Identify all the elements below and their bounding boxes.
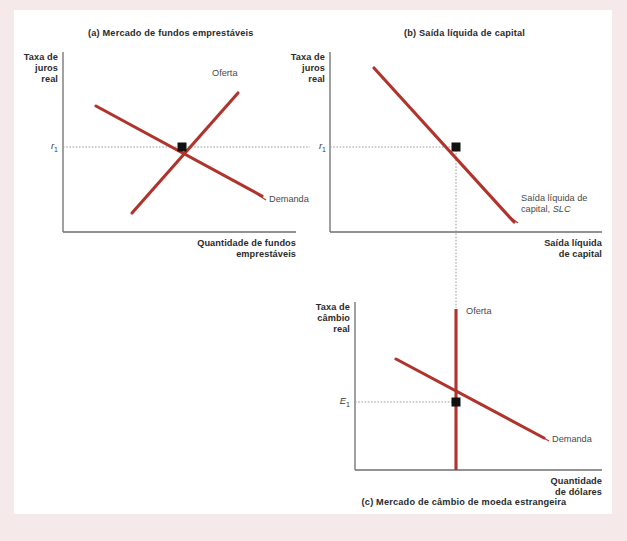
figure-sheet: (a) Mercado de fundos emprestáveis Taxa … xyxy=(14,10,612,514)
panel-b xyxy=(330,52,602,308)
panel-b-nco-label-line2: capital, xyxy=(521,204,553,214)
panel-c-equilibrium-point xyxy=(452,398,461,407)
panel-b-title: (b) Saída líquida de capital xyxy=(404,28,614,39)
panel-a-demand-label: Demanda xyxy=(269,194,309,205)
panel-a-y-axis-label: Taxa de juros real xyxy=(16,52,58,85)
panel-a-supply-curve xyxy=(132,93,238,213)
panel-a-tick-subscript: 1 xyxy=(54,146,58,153)
panel-c-demand-curve xyxy=(396,359,544,438)
panel-a-y-tick-r1: r1 xyxy=(32,140,58,154)
panel-a-x-axis-label: Quantidade de fundos emprestáveis xyxy=(154,238,296,260)
panel-b-tick-subscript: 1 xyxy=(322,146,326,153)
figure-page: (a) Mercado de fundos emprestáveis Taxa … xyxy=(0,0,627,541)
panel-b-nco-curve xyxy=(374,68,514,222)
economics-three-panel-diagram xyxy=(14,10,612,514)
panel-b-nco-label: Saída líquida decapital, SLC xyxy=(521,193,611,215)
panel-b-x-axis-label: Saída líquida de capital xyxy=(484,238,602,260)
panel-c-tick-subscript: 1 xyxy=(346,401,350,408)
panel-b-nco-label-abbrev: SLC xyxy=(553,204,571,214)
panel-a xyxy=(63,52,310,232)
panel-a-title: (a) Mercado de fundos emprestáveis xyxy=(88,28,288,39)
panel-b-y-axis-label: Taxa de juros real xyxy=(283,52,325,85)
panel-c-supply-label: Oferta xyxy=(466,306,492,317)
panel-a-equilibrium-point xyxy=(178,143,187,152)
panel-b-nco-label-line1: Saída líquida de xyxy=(521,193,587,203)
panel-c-title: (c) Mercado de câmbio de moeda estrangei… xyxy=(344,497,584,508)
panel-c-y-tick-e1: E1 xyxy=(324,395,350,409)
panel-c-y-axis-label: Taxa de câmbio real xyxy=(308,302,350,335)
panel-c-x-axis-label: Quantidade de dólares xyxy=(500,476,602,498)
panel-b-y-tick-r1: r1 xyxy=(300,140,326,154)
panel-a-supply-label: Oferta xyxy=(212,68,238,79)
panel-b-equilibrium-point xyxy=(452,143,461,152)
panel-c-demand-label: Demanda xyxy=(552,434,592,445)
